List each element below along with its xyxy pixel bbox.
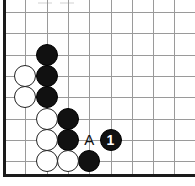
white-stone-c3-r7 — [57, 150, 79, 172]
black-stone-c3-r6 — [57, 129, 79, 151]
gridline-vertical-8 — [174, 0, 175, 174]
gridline-horizontal-1 — [4, 33, 195, 34]
black-stone-c2-r4 — [36, 86, 58, 108]
white-stone-c2-r7 — [36, 150, 58, 172]
gridline-horizontal-0 — [4, 12, 195, 13]
gridline-vertical-6 — [132, 0, 133, 174]
white-stone-c2-r6 — [36, 129, 58, 151]
go-diagram: A1 — [0, 0, 195, 186]
move-number: 1 — [101, 130, 121, 150]
gridline-horizontal-5 — [4, 119, 195, 120]
board-edge-left — [3, 0, 6, 174]
black-stone-c3-r5 — [57, 108, 79, 130]
board-edge-bottom — [3, 174, 195, 177]
black-stone-c2-r2 — [36, 44, 58, 66]
gridline-horizontal-2 — [4, 55, 195, 56]
black-move-stone-1: 1 — [100, 129, 122, 151]
black-stone-c2-r3 — [36, 65, 58, 87]
white-stone-c2-r5 — [36, 108, 58, 130]
point-label-a: A — [78, 129, 100, 151]
gridline-vertical-7 — [153, 0, 154, 174]
